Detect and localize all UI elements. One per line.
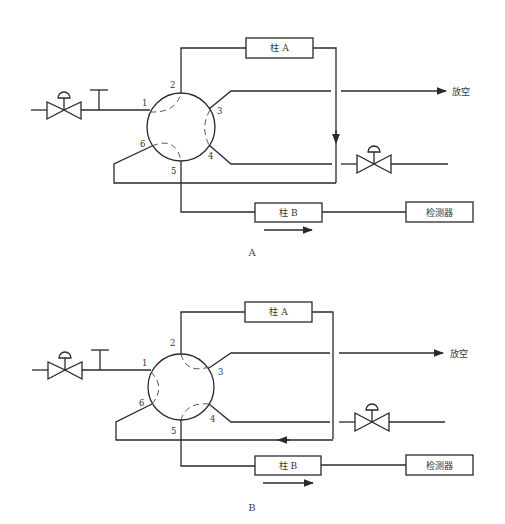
column-b-label: 柱 B [279,207,298,218]
port5-to-column-b [181,420,255,466]
tee-stub [91,350,109,370]
port5-to-column-b [181,161,255,212]
inlet-valve-icon [31,92,81,119]
port4-line [209,145,332,164]
detector-label: 检测器 [426,207,453,218]
port-label-2: 2 [170,80,175,90]
port4-line [209,404,330,422]
inlet-valve-icon [32,352,82,379]
port2-to-column-a [181,312,245,354]
diagram-a: 1 2 3 4 5 6 柱 A 放空 柱 B 检测器 [31,38,473,258]
diagram-caption: A [247,247,256,258]
vent-label: 放空 [450,348,468,359]
port3-line [209,91,331,109]
port-label-1: 1 [142,98,147,108]
vent-label: 放空 [452,86,470,97]
port-label-5: 5 [171,426,176,436]
port-label-2: 2 [170,338,175,348]
internal-path-3-4 [205,110,210,145]
internal-path-6-1 [151,372,159,404]
column-a-outlet [312,312,333,439]
column-a-outlet [313,48,336,183]
outlet-valve-icon [355,404,389,431]
port-label-3: 3 [217,106,222,116]
port-label-1: 1 [142,358,147,368]
port-label-6: 6 [140,139,145,149]
column-a-label: 柱 A [270,42,289,53]
port2-to-column-a [181,48,246,93]
port-label-6: 6 [139,398,144,408]
internal-path-1-2 [150,93,181,112]
outlet-valve-icon [357,146,391,173]
diagram-caption: B [248,502,255,513]
diagram-b: 1 2 3 4 5 6 柱 A 放空 柱 B 检测器 B [32,302,473,513]
detector-label: 检测器 [426,460,453,471]
column-a-label: 柱 A [269,306,288,317]
port-label-5: 5 [171,166,176,176]
port3-line [209,353,330,368]
valve-switching-diagrams: 1 2 3 4 5 6 柱 A 放空 柱 B 检测器 [0,0,505,524]
port-label-4: 4 [210,414,215,424]
port-label-3: 3 [218,367,223,377]
six-port-valve [147,93,215,161]
six-port-valve [148,354,214,420]
tee-stub [90,90,108,110]
internal-path-2-3 [181,354,209,369]
port-label-4: 4 [208,151,213,161]
column-b-label: 柱 B [279,460,298,471]
